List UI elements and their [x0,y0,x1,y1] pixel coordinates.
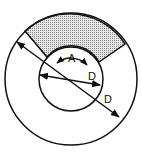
angle-label: A [68,52,76,64]
inner-diameter-label: D [88,70,96,82]
annular-sector-diagram: A D D [0,0,141,152]
outer-diameter-label: D [104,93,112,105]
